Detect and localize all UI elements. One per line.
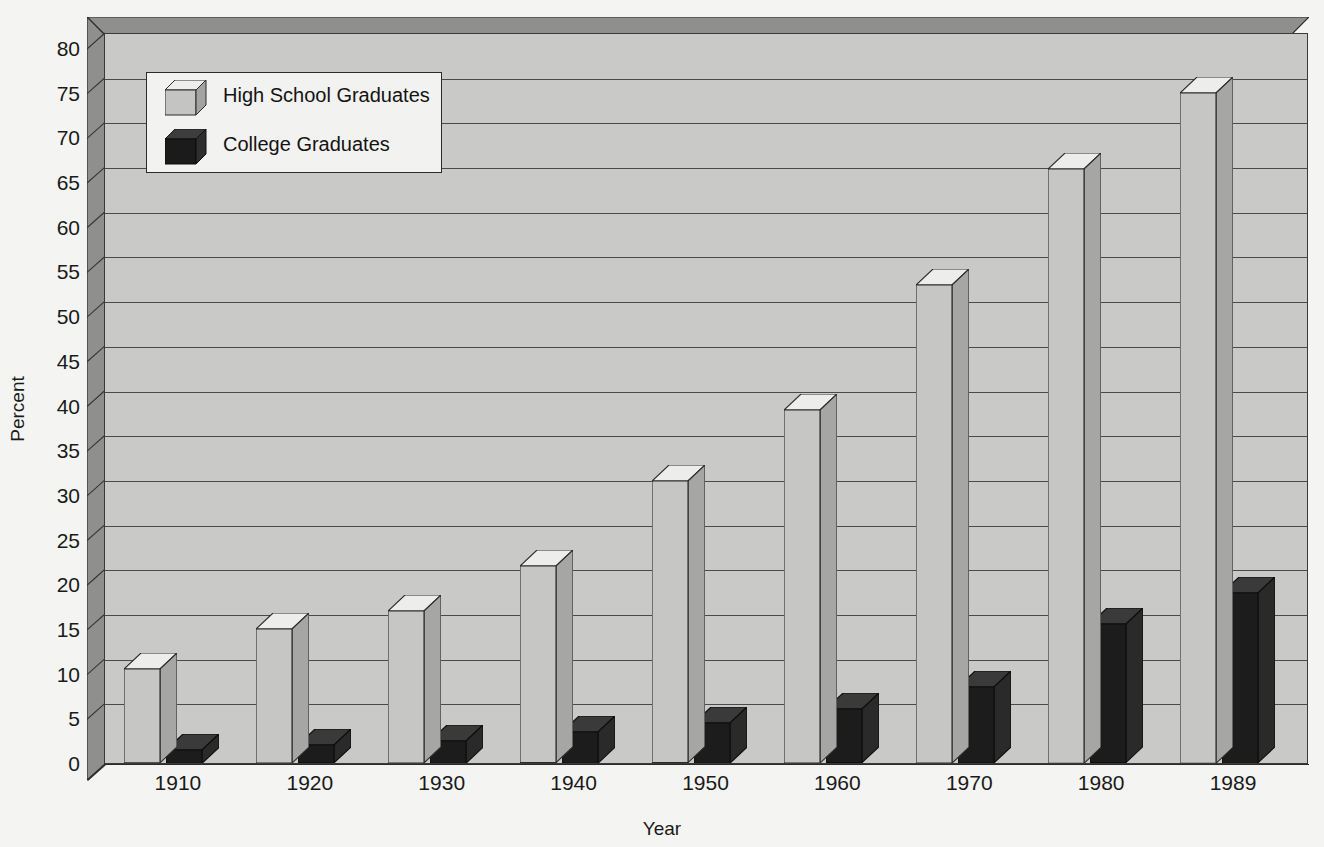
- y-axis-tick-label: 60: [24, 216, 80, 237]
- bar-high-school: [388, 595, 441, 763]
- legend-label: College Graduates: [223, 133, 390, 156]
- bar-high-school: [1048, 153, 1101, 763]
- x-axis-title: Year: [0, 818, 1324, 840]
- x-axis-tick-label: 1950: [641, 771, 771, 795]
- light-gray-cube-icon: [165, 80, 207, 116]
- bar-high-school: [652, 465, 705, 763]
- y-axis-tick-label: 25: [24, 529, 80, 550]
- chart-figure: High School Graduates College Graduates …: [0, 0, 1324, 847]
- legend-label: High School Graduates: [223, 84, 430, 107]
- x-axis-tick-label: 1980: [1036, 771, 1166, 795]
- y-axis-tick-label: 65: [24, 172, 80, 193]
- y-axis-tick-label: 5: [24, 708, 80, 729]
- x-axis-tick-label: 1960: [772, 771, 902, 795]
- legend: High School Graduates College Graduates: [146, 72, 442, 173]
- black-cube-icon: [165, 129, 207, 165]
- legend-item-college-graduates: College Graduates: [147, 125, 441, 169]
- y-axis-tick-label: 35: [24, 440, 80, 461]
- x-axis-tick-label: 1930: [377, 771, 507, 795]
- x-axis-tick-label: 1970: [904, 771, 1034, 795]
- x-axis-tick-label: 1940: [509, 771, 639, 795]
- legend-item-high-school-graduates: High School Graduates: [147, 76, 441, 120]
- y-axis-tick-label: 20: [24, 574, 80, 595]
- bar-high-school: [1180, 77, 1233, 763]
- x-axis-tick-label: 1920: [245, 771, 375, 795]
- bar-high-school: [916, 269, 969, 763]
- y-axis-tick-label: 45: [24, 350, 80, 371]
- y-axis-tick-label: 50: [24, 306, 80, 327]
- bar-high-school: [520, 550, 573, 763]
- y-axis-tick-label: 55: [24, 261, 80, 282]
- y-axis-tick-label: 40: [24, 395, 80, 416]
- y-axis-tick-label: 70: [24, 127, 80, 148]
- y-axis-tick-label: 80: [24, 38, 80, 59]
- bar-high-school: [124, 653, 177, 763]
- y-axis-tick-label: 10: [24, 663, 80, 684]
- bar-high-school: [784, 394, 837, 763]
- y-axis-title: Percent: [7, 369, 29, 449]
- x-axis-tick-label: 1910: [113, 771, 243, 795]
- y-axis-tick-label: 15: [24, 618, 80, 639]
- y-axis-tick-label: 30: [24, 484, 80, 505]
- bar-high-school: [256, 613, 309, 763]
- x-axis-tick-label: 1989: [1168, 771, 1298, 795]
- y-axis-tick-label: 75: [24, 82, 80, 103]
- y-axis-tick-label: 0: [24, 753, 80, 774]
